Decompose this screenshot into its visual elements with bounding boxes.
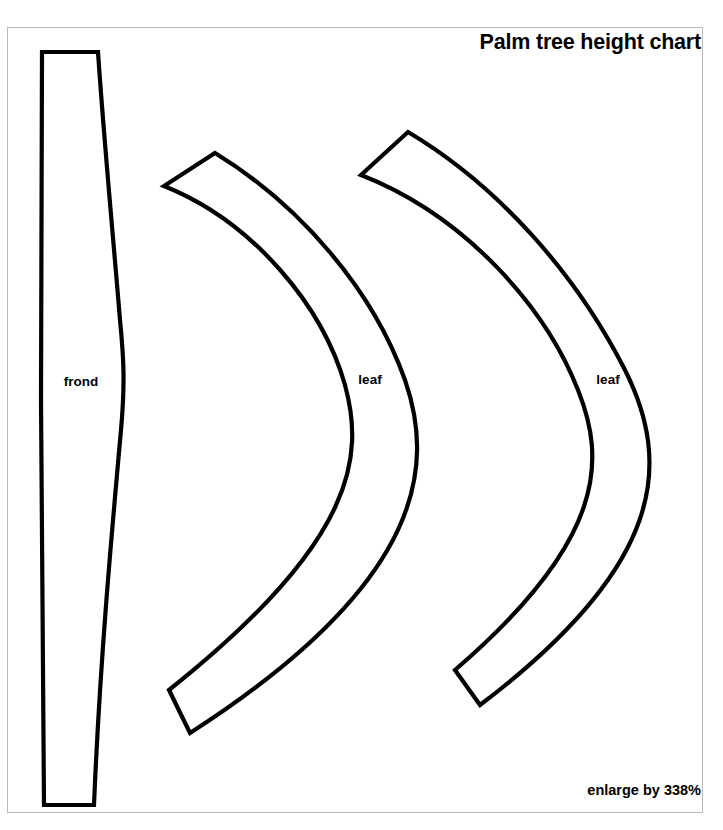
shape-label-leaf-1: leaf bbox=[358, 372, 381, 387]
enlarge-note: enlarge by 338% bbox=[587, 782, 701, 798]
shape-label-frond: frond bbox=[64, 374, 99, 389]
page-frame-border bbox=[7, 27, 703, 813]
page-title: Palm tree height chart bbox=[480, 30, 701, 55]
shape-label-leaf-2: leaf bbox=[596, 372, 619, 387]
page-canvas: Palm tree height chart frond leaf leaf e… bbox=[0, 0, 723, 830]
